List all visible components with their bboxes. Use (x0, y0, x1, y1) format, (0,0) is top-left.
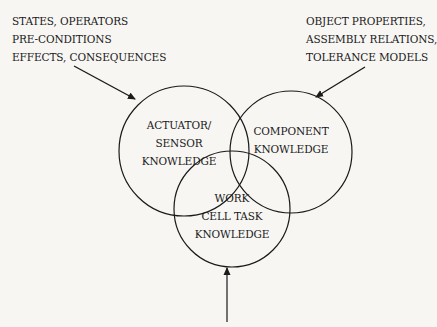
circle-label-line: KNOWLEDGE (246, 140, 336, 158)
circle-label-line: KNOWLEDGE (187, 225, 277, 243)
actuator-input-arrow (74, 66, 135, 99)
work-cell-task-knowledge-label: WORK CELL TASK KNOWLEDGE (187, 189, 277, 243)
circle-label-line: COMPONENT (246, 122, 336, 140)
input-line: TOLERANCE MODELS (306, 48, 437, 66)
actuator-sensor-knowledge-label: ACTUATOR/ SENSOR KNOWLEDGE (134, 116, 224, 170)
circle-label-line: WORK (187, 189, 277, 207)
component-inputs-label: OBJECT PROPERTIES, ASSEMBLY RELATIONS, T… (306, 12, 437, 66)
circle-label-line: ACTUATOR/ (134, 116, 224, 134)
input-line: OBJECT PROPERTIES, (306, 12, 437, 30)
input-line: PRE-CONDITIONS (12, 30, 166, 48)
input-line: EFFECTS, CONSEQUENCES (12, 48, 166, 66)
input-line: ASSEMBLY RELATIONS, (306, 30, 437, 48)
circle-label-line: KNOWLEDGE (134, 152, 224, 170)
component-input-arrow (316, 67, 365, 97)
circle-label-line: SENSOR (134, 134, 224, 152)
actuator-inputs-label: STATES, OPERATORS PRE-CONDITIONS EFFECTS… (12, 12, 166, 66)
component-knowledge-label: COMPONENT KNOWLEDGE (246, 122, 336, 158)
circle-label-line: CELL TASK (187, 207, 277, 225)
input-line: STATES, OPERATORS (12, 12, 166, 30)
